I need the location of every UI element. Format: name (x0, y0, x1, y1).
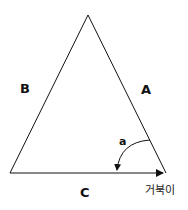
side-a (88, 15, 166, 173)
label-side-c: C (80, 186, 90, 199)
label-turtle: 거북이 (145, 185, 175, 196)
label-angle: a (119, 136, 126, 147)
label-side-b: B (20, 82, 30, 95)
triangle-diagram (0, 0, 188, 210)
label-side-a: A (141, 83, 151, 96)
